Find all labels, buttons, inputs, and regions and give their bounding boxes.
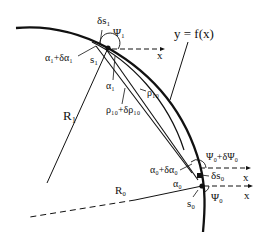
- label-s0: s₀: [187, 198, 195, 209]
- radius-R0-dashed: [30, 200, 135, 217]
- point-s0-plus: [197, 173, 202, 178]
- label-x-low: x: [244, 190, 250, 201]
- label-alpha1-plus: α₁+δα₁: [45, 53, 73, 63]
- label-x-mid: x: [243, 172, 249, 183]
- label-psi0: Ψ₀: [211, 192, 223, 203]
- label-psi1: Ψ₁: [113, 27, 125, 38]
- curve-label: y = f(x): [174, 27, 214, 40]
- label-R1: R₁: [63, 109, 76, 122]
- label-alpha1: α₁: [106, 81, 115, 91]
- leader-rho10-plus: [122, 88, 125, 104]
- label-delta-s0: δs₀: [211, 170, 224, 181]
- label-delta-s1: δs₁: [97, 15, 110, 26]
- label-x-top: x: [157, 50, 163, 61]
- label-alpha0-plus: α₀+δα₀: [150, 165, 178, 175]
- point-s1: [105, 45, 110, 50]
- arrow-mid: [246, 166, 251, 170]
- label-R0: R₀: [115, 185, 126, 196]
- label-s1: s₁: [90, 54, 98, 65]
- arrow-low: [248, 184, 253, 188]
- point-s0: [199, 183, 204, 188]
- leader-s0: [193, 190, 198, 197]
- diagram-lines: [0, 0, 269, 248]
- leader-rho10: [140, 89, 146, 91]
- label-rho10: ρ₁₀: [147, 88, 159, 98]
- leader-delta-s1: [100, 30, 102, 43]
- curve-geometry-diagram: y = f(x) δs₁ Ψ₁ x α₁+δα₁ s₁ α₁ ρ₁₀ ρ₁₀+δ…: [0, 0, 269, 248]
- radius-R1: [47, 48, 108, 183]
- label-rho10-plus: ρ₁₀+δρ₁₀: [106, 105, 140, 115]
- label-alpha0: α₀: [173, 179, 182, 189]
- leader-curve-label: [170, 42, 188, 100]
- label-psi0-plus: Ψ₀+δΨ₀: [206, 152, 238, 162]
